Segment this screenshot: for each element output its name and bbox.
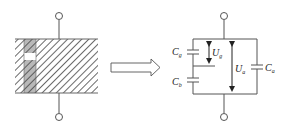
cg-label: Cg (172, 46, 182, 58)
void-gap (24, 53, 36, 60)
diagram-canvas: Cg Cb Ca Ug Ua (0, 0, 288, 131)
cb-label: Cb (172, 76, 182, 88)
ug-label: Ug (212, 47, 222, 59)
physical-model (15, 13, 98, 121)
ca-label: Ca (265, 62, 275, 74)
hatch-fill (15, 39, 98, 93)
bottom-terminal-icon (56, 114, 63, 121)
equivalent-circuit (187, 13, 263, 121)
ua-label: Ua (235, 63, 245, 75)
top-terminal-icon (56, 13, 63, 20)
equivalence-arrow-icon (111, 59, 160, 76)
circuit-top-terminal-icon (221, 13, 228, 20)
circuit-bottom-terminal-icon (221, 114, 228, 121)
